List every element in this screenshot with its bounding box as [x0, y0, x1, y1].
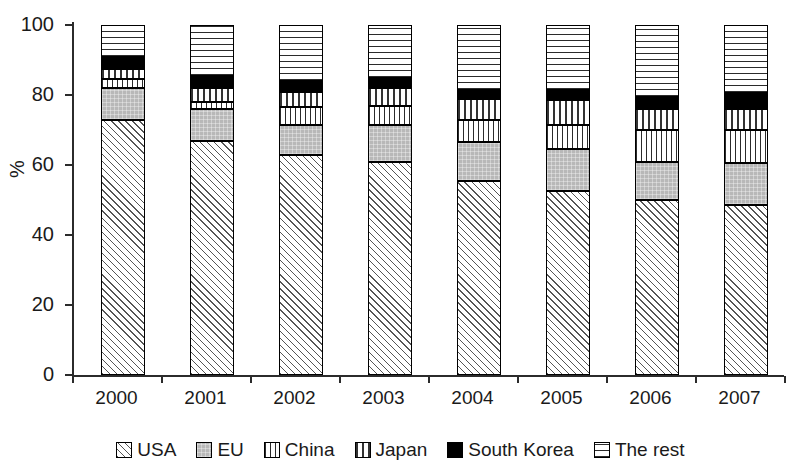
x-tick: [695, 376, 697, 383]
bar-segment-japan: [279, 92, 323, 108]
x-tick: [250, 376, 252, 383]
bar-segment-eu: [457, 142, 501, 181]
bar-segment-usa: [190, 141, 234, 376]
x-tick: [784, 376, 786, 383]
stacked-bar-chart: % 020406080100 2000200120022003200420052…: [0, 0, 801, 472]
x-tick-label: 2002: [250, 388, 339, 408]
y-tick-label: 80: [0, 84, 54, 104]
bar-segment-south-korea: [457, 90, 501, 99]
bar-segment-usa: [724, 205, 768, 375]
bar-2005: [546, 25, 590, 375]
x-tick: [517, 376, 519, 383]
bar-segment-usa: [546, 191, 590, 375]
y-tick-label: 20: [0, 294, 54, 314]
bar-segment-china: [279, 107, 323, 125]
bar-segment-china: [101, 79, 145, 88]
horizontal-lines-swatch: [594, 442, 610, 458]
legend-label: South Korea: [468, 440, 574, 460]
y-tick: [65, 94, 72, 96]
legend-label: The rest: [615, 440, 685, 460]
bar-2006: [635, 25, 679, 375]
bar-segment-eu: [724, 163, 768, 205]
legend-item-usa: USA: [116, 440, 176, 460]
x-tick: [339, 376, 341, 383]
x-tick-label: 2003: [339, 388, 428, 408]
y-tick: [65, 304, 72, 306]
y-tick: [65, 164, 72, 166]
x-tick: [428, 376, 430, 383]
dotted-grid-swatch: [355, 442, 371, 458]
bar-segment-eu: [190, 109, 234, 141]
legend-label: China: [285, 440, 335, 460]
bar-segment-south-korea: [546, 90, 590, 101]
bar-segment-the-rest: [279, 25, 323, 81]
bar-segment-china: [546, 125, 590, 150]
legend-label: Japan: [376, 440, 428, 460]
bar-segment-usa: [457, 181, 501, 375]
bar-segment-japan: [724, 109, 768, 130]
bar-segment-the-rest: [724, 25, 768, 93]
bar-segment-the-rest: [635, 25, 679, 97]
diagonal-hatch-swatch: [116, 442, 132, 458]
bar-segment-japan: [368, 88, 412, 106]
bar-segment-eu: [635, 162, 679, 201]
bar-segment-south-korea: [724, 93, 768, 109]
bar-segment-eu: [279, 125, 323, 155]
bar-segment-south-korea: [190, 76, 234, 88]
bar-2000: [101, 25, 145, 375]
legend-item-eu: EU: [196, 440, 243, 460]
bar-segment-china: [190, 102, 234, 109]
bar-2007: [724, 25, 768, 375]
solid-gray-swatch: [196, 442, 212, 458]
bar-segment-usa: [635, 200, 679, 375]
x-tick: [72, 376, 74, 383]
bar-segment-south-korea: [368, 78, 412, 89]
bar-segment-the-rest: [101, 25, 145, 57]
bar-segment-japan: [457, 99, 501, 120]
legend-item-china: China: [264, 440, 335, 460]
legend-item-japan: Japan: [355, 440, 428, 460]
legend-label: EU: [217, 440, 243, 460]
legend-item-the-rest: The rest: [594, 440, 685, 460]
bar-segment-usa: [368, 162, 412, 376]
y-tick: [65, 374, 72, 376]
x-tick-label: 2005: [517, 388, 606, 408]
solid-black-swatch: [447, 442, 463, 458]
bar-segment-the-rest: [368, 25, 412, 78]
x-tick-label: 2007: [695, 388, 784, 408]
bar-segment-japan: [101, 69, 145, 80]
y-tick-label: 60: [0, 154, 54, 174]
bar-segment-eu: [368, 125, 412, 162]
bar-segment-south-korea: [101, 57, 145, 69]
bar-segment-usa: [101, 120, 145, 376]
bar-2001: [190, 25, 234, 375]
bar-segment-usa: [279, 155, 323, 376]
x-tick: [606, 376, 608, 383]
bar-segment-eu: [101, 88, 145, 120]
x-tick-label: 2004: [428, 388, 517, 408]
bar-segment-south-korea: [279, 81, 323, 92]
bar-segment-south-korea: [635, 97, 679, 109]
bar-segment-china: [724, 130, 768, 163]
bar-segment-china: [457, 120, 501, 143]
bar-segment-the-rest: [457, 25, 501, 90]
x-tick: [161, 376, 163, 383]
bar-2004: [457, 25, 501, 375]
bar-segment-japan: [190, 88, 234, 102]
x-tick-label: 2006: [606, 388, 695, 408]
x-tick-label: 2001: [161, 388, 250, 408]
y-tick: [65, 24, 72, 26]
y-tick-label: 100: [0, 14, 54, 34]
legend-item-south-korea: South Korea: [447, 440, 574, 460]
bar-segment-the-rest: [546, 25, 590, 90]
bar-segment-eu: [546, 149, 590, 191]
x-tick-label: 2000: [72, 388, 161, 408]
bar-2002: [279, 25, 323, 375]
vertical-lines-swatch: [264, 442, 280, 458]
bar-segment-the-rest: [190, 25, 234, 76]
y-tick-label: 0: [0, 364, 54, 384]
legend-label: USA: [137, 440, 176, 460]
y-tick-label: 40: [0, 224, 54, 244]
bar-2003: [368, 25, 412, 375]
bar-segment-china: [635, 130, 679, 162]
